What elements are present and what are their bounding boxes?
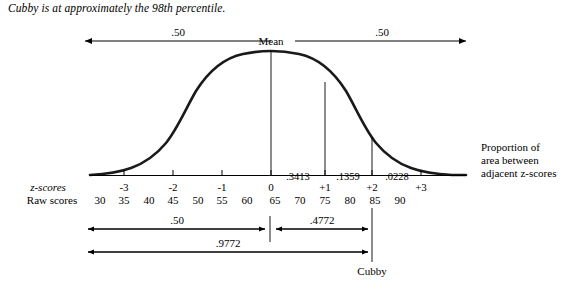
side-note-line-1: Proportion of (481, 141, 540, 153)
z-tick-label: -3 (119, 181, 129, 193)
raw-tick-label: 50 (193, 194, 205, 206)
raw-tick-label: 55 (217, 194, 229, 206)
raw-tick-label: 70 (295, 194, 307, 206)
top-right-arrow-label: .50 (375, 26, 389, 38)
bottom-arrow-9772-label: .9772 (216, 237, 241, 249)
z-tick-label: +3 (415, 181, 427, 193)
area-label-2-to-3: .0228 (385, 171, 409, 182)
raw-tick-label: 30 (95, 194, 107, 206)
raw-tick-label: 60 (242, 194, 254, 206)
z-tick-label: -1 (217, 181, 226, 193)
top-left-arrow-label: .50 (171, 26, 185, 38)
z-tick-label: 0 (268, 181, 274, 193)
bottom-arrow-half-label: .50 (170, 214, 184, 226)
raw-tick-label: 90 (395, 194, 407, 206)
raw-tick-label: 40 (144, 194, 156, 206)
figure-root: Cubby is at approximately the 98th perce… (0, 0, 575, 291)
bottom-arrow-4772-label: .4772 (310, 214, 335, 226)
raw-tick-label: 65 (270, 194, 282, 206)
z-scores-row-label: z-scores (29, 181, 66, 193)
area-label-0-to-1: .3413 (286, 171, 310, 182)
z-tick-label: +2 (366, 181, 378, 193)
z-tick-label: -2 (168, 181, 177, 193)
side-note-line-3: adjacent z-scores (481, 167, 556, 179)
side-note-line-2: area between (481, 154, 539, 166)
area-label-1-to-2: .1359 (336, 171, 360, 182)
raw-tick-label: 85 (370, 194, 382, 206)
z-tick-label: +1 (319, 181, 331, 193)
raw-scores-row-label: Raw scores (27, 194, 77, 206)
raw-tick-label: 45 (168, 194, 180, 206)
raw-tick-label: 35 (119, 194, 131, 206)
normal-distribution-figure: .50 Mean .50 .3413 .1359 .0228 z-scores … (0, 0, 575, 291)
mean-label: Mean (258, 35, 284, 47)
raw-tick-label: 80 (345, 194, 357, 206)
cubby-marker-label: Cubby (357, 265, 387, 277)
normal-curve (90, 51, 466, 175)
raw-tick-label: 75 (320, 194, 332, 206)
